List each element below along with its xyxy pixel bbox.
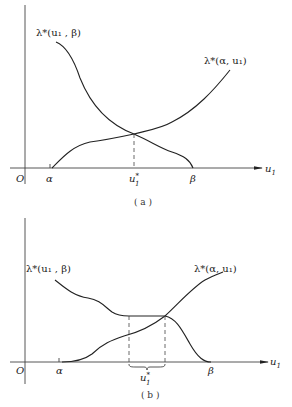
curve-left-label-a: λ*(u₁ , β) — [36, 27, 81, 38]
curve-right-label-a: λ*(α, u₁) — [204, 55, 247, 66]
tick-beta-b: β — [207, 365, 214, 376]
tick-alpha-b: α — [56, 365, 63, 376]
figure-canvas: O u1 λ*(u₁ , β) λ*(α, u₁) α β u*1 ( a ) … — [0, 0, 292, 407]
curve-lambda-alpha-u1-a — [52, 70, 230, 168]
tick-alpha-a: α — [46, 173, 53, 184]
curve-lambda-alpha-u1-b — [62, 272, 223, 362]
figure-a: O u1 λ*(u₁ , β) λ*(α, u₁) α β u*1 ( a ) — [10, 5, 276, 207]
x-axis-label-b: u1 — [270, 356, 281, 370]
caption-b: ( b ) — [141, 390, 160, 400]
origin-label-a: O — [16, 173, 24, 184]
origin-label-b: O — [16, 365, 24, 376]
curve-lambda-u1-beta-a — [56, 42, 193, 168]
tick-ustar-b: u*1 — [140, 371, 150, 387]
caption-a: ( a ) — [134, 197, 152, 207]
x-axis-label-a: u1 — [265, 163, 276, 177]
curve-left-label-b: λ*(u₁ , β) — [26, 263, 71, 274]
figure-b: O u1 λ*(u₁ , β) λ*(α, u₁) α β u*1 ( b ) — [10, 218, 281, 400]
curve-right-label-b: λ*(α, u₁) — [194, 263, 237, 274]
ustar-interval-brace-b — [129, 364, 165, 370]
curve-lambda-u1-beta-b — [55, 280, 211, 362]
tick-ustar-a: u*1 — [129, 172, 139, 188]
tick-beta-a: β — [189, 173, 196, 184]
